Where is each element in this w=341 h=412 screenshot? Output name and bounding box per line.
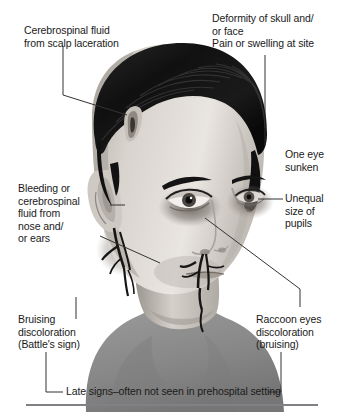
bleeding-ear-leader-2 (100, 236, 160, 263)
label-deformity-of-skull: Deformity of skull and/ or face Pain or … (212, 12, 314, 50)
label-unequal-size-of-pupils: Unequal size of pupils (285, 192, 323, 230)
label-battles-sign: Bruising discoloration (Battle's sign) (18, 313, 80, 351)
label-one-eye-sunken: One eye sunken (285, 148, 324, 173)
label-raccoon-eyes: Raccoon eyes discoloration (bruising) (256, 313, 321, 351)
raccoon-eyes-leader (205, 218, 300, 307)
head-injury-figure: Cerebrospinal fluid from scalp laceratio… (0, 0, 341, 412)
caption-late-signs: Late signs–often not seen in prehospital… (66, 385, 281, 398)
label-csf-scalp-laceration: Cerebrospinal fluid from scalp laceratio… (24, 24, 119, 49)
label-bleeding-or-csf-nose-ears: Bleeding or cerebrospinal fluid from nos… (18, 182, 80, 245)
csf-scalp-leader (63, 46, 127, 115)
late-signs-bracket-left (46, 352, 63, 392)
